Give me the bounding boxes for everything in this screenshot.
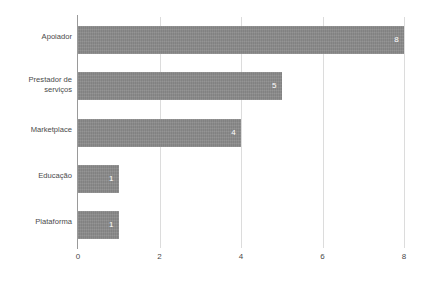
bars-layer: 85411 [78,17,404,248]
bar-row: 5 [78,72,404,100]
bar[interactable]: 5 [78,72,282,100]
bar-value-label: 1 [109,221,114,229]
category-label-line: Educação [0,171,72,181]
bar-value-label: 1 [109,175,114,183]
bar-value-label: 5 [272,82,277,90]
x-tick-label: 8 [392,252,416,262]
category-label-line: Apoiador [0,32,72,42]
bar[interactable]: 1 [78,165,119,193]
x-tick-label: 4 [229,252,253,262]
category-label-line: Marketplace [0,125,72,135]
x-tick-label: 2 [148,252,172,262]
bar[interactable]: 8 [78,26,404,54]
category-axis-labels: Apoiador Prestador de serviços Marketpla… [0,17,72,248]
bar[interactable]: 4 [78,119,241,147]
gridline [404,17,405,248]
bar-value-label: 4 [231,129,236,137]
bar-row: 8 [78,26,404,54]
category-label-prestador-de-servicos: Prestador de serviços [0,75,72,94]
x-tick-label: 6 [311,252,335,262]
category-label-plataforma: Plataforma [0,217,72,227]
bar-chart: Apoiador Prestador de serviços Marketpla… [0,0,429,283]
bar-row: 4 [78,119,404,147]
category-label-line: Plataforma [0,217,72,227]
category-label-marketplace: Marketplace [0,125,72,135]
category-label-apoiador: Apoiador [0,32,72,42]
x-tick-label: 0 [66,252,90,262]
bar-row: 1 [78,165,404,193]
plot-area: 85411 [78,17,404,248]
category-label-line: serviços [0,85,72,95]
category-label-educacao: Educação [0,171,72,181]
bar[interactable]: 1 [78,211,119,239]
bar-value-label: 8 [394,36,399,44]
bar-row: 1 [78,211,404,239]
category-label-line: Prestador de [0,75,72,85]
